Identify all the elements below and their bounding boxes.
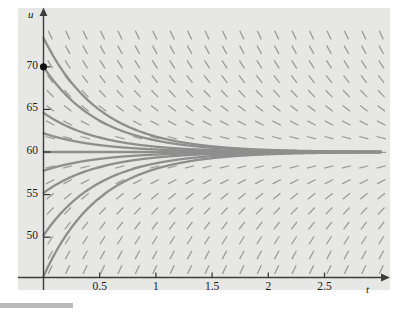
x-axis-label: t [366, 283, 369, 295]
x-tick-label: 2.5 [305, 280, 345, 292]
x-tick-label: 1.5 [192, 280, 232, 292]
y-tick-label: 60 [0, 144, 38, 156]
x-tick-label: 1 [136, 280, 176, 292]
x-axis-arrow [381, 274, 390, 282]
y-tick-label: 70 [0, 59, 38, 71]
initial-condition-markers [40, 63, 47, 70]
x-tick-label: 2 [248, 280, 288, 292]
plot-canvas [0, 0, 407, 314]
slope-field-figure: u t 0.511.522.5 5055606570 [0, 0, 407, 314]
y-tick-label: 55 [0, 187, 38, 199]
solution-curves [44, 38, 381, 277]
footer-bar [0, 303, 73, 308]
y-axis-arrow [40, 8, 48, 17]
x-tick-label: 0.5 [80, 280, 120, 292]
y-axis-label: u [28, 8, 34, 20]
y-tick-label: 65 [0, 101, 38, 113]
y-tick-label: 50 [0, 229, 38, 241]
x-axis-ticks [100, 273, 325, 278]
